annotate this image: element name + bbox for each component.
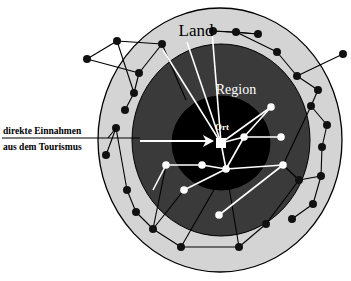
network-node-black: [113, 37, 121, 45]
network-node-white: [198, 161, 206, 169]
network-node-black: [123, 186, 131, 194]
network-node-black: [232, 28, 240, 36]
ring-label-ort: Ort: [215, 122, 229, 132]
network-node-black: [132, 208, 140, 216]
network-node-white: [279, 161, 287, 169]
diagram-canvas: Land Region Ort direkte Einnahmen aus de…: [0, 0, 351, 281]
network-node-black: [149, 225, 157, 233]
callout-line-1: direkte Einnahmen: [3, 126, 82, 136]
network-node-black: [307, 102, 315, 110]
callout-line-2: aus dem Tourismus: [3, 142, 82, 152]
network-node-black: [158, 40, 166, 48]
network-node-black: [293, 72, 301, 80]
network-node-black: [102, 151, 110, 159]
network-node-white: [162, 161, 170, 169]
network-node-black: [295, 176, 303, 184]
network-node-white: [180, 186, 188, 194]
network-node-black: [288, 215, 296, 223]
network-node-black: [235, 243, 243, 251]
network-node-black: [317, 172, 325, 180]
network-node-white: [215, 211, 223, 219]
ring-label-land: Land: [179, 21, 214, 40]
network-node-black: [314, 86, 322, 94]
network-node-white: [222, 165, 230, 173]
network-node-black: [254, 30, 262, 38]
network-node-black: [318, 143, 326, 151]
network-node-white: [240, 133, 248, 141]
network-node-black: [309, 200, 317, 208]
network-node-black: [339, 50, 347, 58]
network-node-black: [121, 106, 129, 114]
network-node-black: [273, 48, 281, 56]
concentric-network-diagram: Land Region Ort direkte Einnahmen aus de…: [0, 0, 351, 281]
network-node-black: [83, 55, 91, 63]
network-node-black: [130, 89, 138, 97]
network-node-white: [277, 133, 285, 141]
ring-label-region: Region: [216, 82, 256, 97]
network-node-black: [135, 69, 143, 77]
network-node-black: [262, 220, 270, 228]
network-node-black: [177, 243, 185, 251]
ort-node: [217, 139, 226, 148]
network-node-black: [323, 121, 331, 129]
network-node-white: [267, 103, 275, 111]
black-edge: [87, 41, 117, 59]
